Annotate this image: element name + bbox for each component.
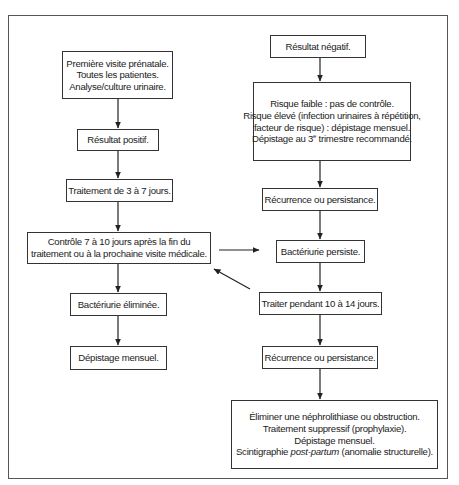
node-text: Traiter pendant 10 à 14 jours.: [261, 298, 379, 310]
node-text: traitement ou à la prochaine visite médi…: [31, 248, 207, 260]
node-treatment-3-7-days: Traitement de 3 à 7 jours.: [66, 179, 173, 202]
node-text-part: (anomalie structurelle).: [339, 446, 433, 457]
node-text: Éliminer une néphrolithiase ou obstructi…: [249, 411, 420, 423]
node-negative-result: Résultat négatif.: [270, 35, 366, 58]
node-initial-visit: Première visite prénatale. Toutes les pa…: [62, 51, 173, 99]
node-text: Analyse/culture urinaire.: [69, 81, 166, 93]
node-text: Résultat négatif.: [285, 41, 350, 53]
node-text: Contrôle 7 à 10 jours après la fin du: [48, 236, 191, 248]
node-text: Première visite prénatale.: [66, 58, 168, 70]
node-text: Scintigraphie post-partum (anomalie stru…: [236, 446, 433, 458]
node-text: Risque faible : pas de contrôle.: [270, 98, 394, 110]
node-text: facteur de risque) : dépistage mensuel.: [254, 122, 410, 134]
node-text: Dépistage mensuel.: [78, 352, 158, 364]
node-text: Risque élevé (infection urinaires à répé…: [243, 110, 421, 122]
node-monthly-screening: Dépistage mensuel.: [70, 346, 167, 370]
node-text: Traitement suppressif (prophylaxie).: [263, 423, 407, 435]
node-text: Récurrence ou persistance.: [265, 352, 376, 364]
node-recurrence-2: Récurrence ou persistance.: [262, 346, 378, 369]
node-treat-10-14-days: Traiter pendant 10 à 14 jours.: [259, 292, 382, 315]
node-text-part: Dépistage au 3: [252, 133, 313, 144]
node-text: Résultat positif.: [87, 134, 148, 146]
node-text: Toutes les patientes.: [76, 69, 158, 81]
node-bacteriuria-persists: Bactériurie persiste.: [276, 240, 365, 263]
node-control-visit: Contrôle 7 à 10 jours après la fin du tr…: [27, 232, 211, 264]
node-text: Bactériurie éliminée.: [78, 299, 160, 311]
node-text: Bactériurie persiste.: [281, 246, 361, 258]
node-text-part: Scintigraphie: [236, 446, 291, 457]
node-text: Traitement de 3 à 7 jours.: [68, 185, 170, 197]
node-text-italic: post-partum: [291, 446, 339, 457]
node-text: Récurrence ou persistance.: [265, 194, 376, 206]
node-risk-assessment: Risque faible : pas de contrôle. Risque …: [253, 82, 411, 161]
node-text: Dépistage au 3e trimestre recommandé.: [252, 133, 412, 145]
node-text-part: trimestre recommandé.: [316, 133, 412, 144]
node-positive-result: Résultat positif.: [77, 129, 159, 151]
node-recurrence-1: Récurrence ou persistance.: [262, 188, 378, 211]
node-text: Dépistage mensuel.: [294, 435, 374, 447]
node-bacteriuria-eliminated: Bactériurie éliminée.: [70, 293, 167, 316]
node-final-management: Éliminer une néphrolithiase ou obstructi…: [231, 400, 438, 469]
